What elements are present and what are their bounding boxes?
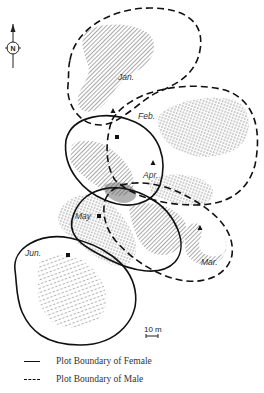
home-range-map: N Jan. [0, 0, 264, 393]
center-marker-jun [66, 253, 70, 257]
north-arrow-icon: N [5, 24, 21, 68]
solid-line-icon [24, 361, 40, 362]
label-jun: Jun. [24, 248, 41, 258]
legend-male: Plot Boundary of Male [24, 374, 143, 384]
center-marker-apr-square [115, 135, 119, 139]
legend-female-label: Plot Boundary of Female [56, 356, 152, 366]
dashed-line-icon [24, 379, 40, 380]
north-label: N [10, 45, 15, 52]
label-jan: Jan. [117, 72, 134, 82]
label-mar: Mar. [201, 257, 218, 267]
scale-label: 10 m [144, 325, 162, 334]
center-marker-apr [151, 160, 156, 165]
legend-male-label: Plot Boundary of Male [56, 374, 143, 384]
label-feb: Feb. [138, 111, 155, 121]
label-apr: Apr. [142, 170, 158, 180]
center-marker-may [97, 214, 101, 218]
label-may: May [75, 211, 92, 221]
center-marker-jan [111, 108, 116, 113]
legend-female: Plot Boundary of Female [24, 356, 152, 366]
scale-bar: 10 m [144, 325, 162, 338]
